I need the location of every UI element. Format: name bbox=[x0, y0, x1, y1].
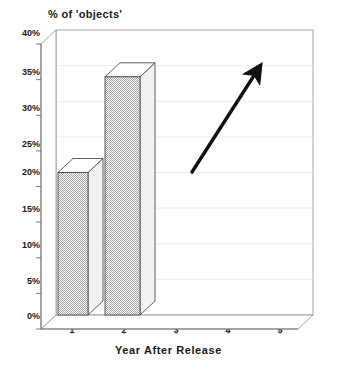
bar-year-1[interactable] bbox=[58, 159, 103, 316]
x-axis bbox=[41, 329, 298, 334]
y-axis bbox=[36, 44, 41, 329]
bar-year-2[interactable] bbox=[105, 63, 155, 315]
plot-area bbox=[0, 0, 337, 372]
plot-left-wall bbox=[41, 30, 56, 329]
plot-floor bbox=[41, 315, 313, 329]
chart-figure: % of 'objects' 40% 35% 30% 25% 20% 15% 1… bbox=[0, 0, 337, 372]
